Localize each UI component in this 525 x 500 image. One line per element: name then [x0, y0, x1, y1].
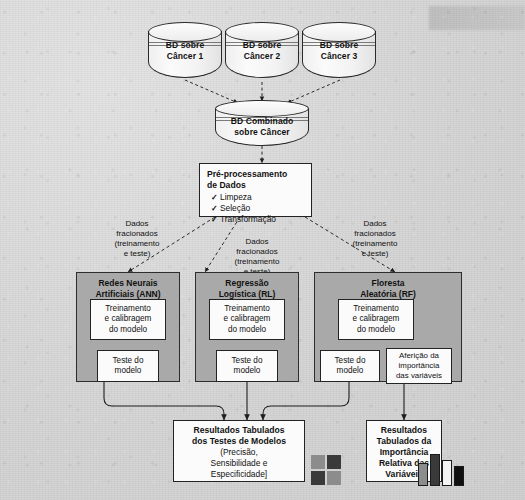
- bar-chart-icon: [418, 452, 464, 486]
- step-box-rf-test: Teste do modelo: [320, 350, 380, 382]
- step-box-ann-test: Teste do modelo: [97, 350, 159, 382]
- table-grid-icon: [311, 455, 341, 485]
- ann-title-line2: Artificiais (ANN): [95, 289, 160, 299]
- rf-importance-label: Aferição da importância das variáveis: [387, 349, 451, 383]
- database-cylinder-3: BD sobre Câncer 3: [302, 22, 376, 78]
- split-label-right: Dados fracionados (treinamento e teste): [334, 219, 416, 259]
- step-box-rl-test: Teste do modelo: [216, 350, 278, 382]
- model-rl-title: Regressão Logística (RL): [196, 278, 298, 299]
- model-ann-title: Redes Neurais Artificiais (ANN): [77, 278, 179, 299]
- scan-artifact-band: [429, 6, 525, 30]
- combined-line1: BD Combinado: [231, 116, 294, 126]
- database-2-label: BD sobre Câncer 2: [225, 40, 299, 62]
- split-label-left: Dados fracionados (treinamento e teste): [96, 219, 178, 259]
- preprocessing-step-selecao: ✓Seleção: [211, 203, 305, 214]
- database-3-label: BD sobre Câncer 3: [302, 40, 376, 62]
- database-cylinder-2: BD sobre Câncer 2: [225, 22, 299, 78]
- step-label: Limpeza: [220, 192, 252, 202]
- results-box-models: Resultados Tabulados dos Testes de Model…: [173, 420, 305, 482]
- bar: [454, 466, 464, 486]
- model-rf-title: Floresta Aleatória (RF): [315, 278, 461, 299]
- check-icon: ✓: [211, 214, 220, 225]
- rf-title-line1: Floresta: [371, 278, 404, 288]
- step-label: Seleção: [220, 203, 250, 213]
- rl-title-line1: Regressão: [225, 278, 268, 288]
- rl-title-line2: Logística (RL): [219, 289, 276, 299]
- db3-line2: Câncer 3: [321, 51, 358, 61]
- split-label-center: Dados fracionados (treinamento e teste): [216, 237, 298, 277]
- grid-cell: [311, 455, 325, 469]
- ann-test-label: Teste do modelo: [98, 351, 158, 381]
- bar: [442, 460, 452, 486]
- results-models-subtitle: (Precisão, Sensibilidade e Especificidad…: [179, 447, 299, 480]
- combined-database-cylinder: BD Combinado sobre Câncer: [215, 100, 309, 146]
- check-icon: ✓: [211, 192, 220, 203]
- grid-cell: [311, 471, 325, 485]
- database-1-label: BD sobre Câncer 1: [148, 40, 222, 62]
- step-box-ann-train: Treinamento e calibragem do modelo: [90, 299, 166, 340]
- diagram-canvas: BD sobre Câncer 1 BD sobre Câncer 2 BD s…: [0, 0, 525, 500]
- db3-line1: BD sobre: [320, 40, 359, 50]
- bar: [430, 454, 440, 486]
- db1-line1: BD sobre: [166, 40, 205, 50]
- database-cylinder-1: BD sobre Câncer 1: [148, 22, 222, 78]
- preprocessing-step-limpeza: ✓Limpeza: [211, 192, 305, 203]
- ann-train-label: Treinamento e calibragem do modelo: [91, 300, 165, 339]
- preprocessing-title-line1: Pré-processamento: [207, 169, 287, 179]
- db2-line1: BD sobre: [243, 40, 282, 50]
- db2-line2: Câncer 2: [244, 51, 281, 61]
- grid-cell: [327, 471, 341, 485]
- combined-line2: sobre Câncer: [234, 127, 290, 137]
- preprocessing-title: Pré-processamento de Dados: [207, 169, 305, 190]
- bar: [418, 463, 428, 486]
- rl-test-label: Teste do modelo: [217, 351, 277, 381]
- step-box-rf-train: Treinamento e calibragem do modelo: [338, 299, 414, 340]
- cylinder-top: [215, 100, 309, 117]
- rf-train-label: Treinamento e calibragem do modelo: [339, 300, 413, 339]
- ann-title-line1: Redes Neurais: [98, 278, 157, 288]
- combined-database-label: BD Combinado sobre Câncer: [215, 116, 309, 138]
- grid-cell: [327, 455, 341, 469]
- step-box-rl-train: Treinamento e calibragem do modelo: [209, 299, 285, 340]
- preprocessing-step-transformacao: ✓Transformação: [211, 214, 305, 225]
- results-models-title: Resultados Tabulados dos Testes de Model…: [179, 425, 299, 447]
- rf-title-line2: Aleatória (RF): [360, 289, 416, 299]
- preprocessing-title-line2: de Dados: [207, 180, 246, 190]
- rl-train-label: Treinamento e calibragem do modelo: [210, 300, 284, 339]
- db1-line2: Câncer 1: [167, 51, 204, 61]
- step-box-rf-importance: Aferição da importância das variáveis: [386, 348, 452, 384]
- check-icon: ✓: [211, 203, 220, 214]
- preprocessing-box: Pré-processamento de Dados ✓Limpeza ✓Sel…: [199, 163, 312, 217]
- rf-test-label: Teste do modelo: [321, 351, 379, 381]
- step-label: Transformação: [220, 214, 276, 224]
- preprocessing-steps-list: ✓Limpeza ✓Seleção ✓Transformação: [211, 192, 305, 225]
